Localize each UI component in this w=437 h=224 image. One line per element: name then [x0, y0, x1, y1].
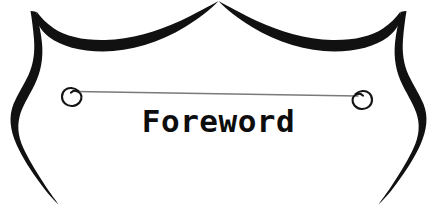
top-right-scroll-arc-icon [219, 1, 402, 52]
left-brace-stroke-icon [11, 11, 59, 205]
left-spiral-curl-icon [62, 88, 81, 106]
horizontal-divider-rule-icon [76, 92, 358, 97]
right-brace-stroke-icon [379, 11, 427, 205]
right-spiral-curl-icon [353, 91, 372, 109]
top-left-scroll-arc-icon [36, 1, 219, 52]
foreword-banner-ornament: Foreword [0, 0, 437, 224]
ornamental-cartouche-frame [0, 0, 437, 224]
